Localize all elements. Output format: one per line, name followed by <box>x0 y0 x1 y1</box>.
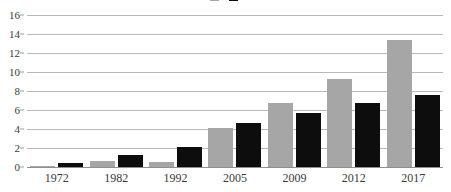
bar-group <box>146 15 205 167</box>
bar[interactable] <box>236 123 261 167</box>
x-axis-tick-label: 2009 <box>282 170 306 186</box>
x-axis-tick-label: 1992 <box>164 170 188 186</box>
bar[interactable] <box>30 166 55 167</box>
grouped-bar-chart: 0246810121416 19721982199220052009201220… <box>0 0 451 192</box>
bar-group <box>205 15 264 167</box>
bar[interactable] <box>208 128 233 167</box>
x-axis-tick-label: 2017 <box>401 170 425 186</box>
chart-legend <box>0 0 451 4</box>
y-axis-tick-mark <box>20 91 24 92</box>
y-axis-tick-label: 12 <box>9 48 20 59</box>
x-axis-tick-label: 2005 <box>223 170 247 186</box>
legend-swatch-icon <box>229 0 238 1</box>
x-axis-tick-label: 1982 <box>104 170 128 186</box>
bar[interactable] <box>58 163 83 167</box>
y-axis-tick-mark <box>20 15 24 16</box>
y-axis-tick-mark <box>20 129 24 130</box>
y-axis-tick-mark <box>20 167 24 168</box>
y-axis-tick-mark <box>20 72 24 73</box>
bar[interactable] <box>268 103 293 167</box>
legend-swatch-icon <box>210 0 219 1</box>
bar[interactable] <box>387 40 412 167</box>
y-axis-tick-label: 14 <box>9 29 20 40</box>
bars-layer <box>27 15 443 167</box>
bar[interactable] <box>355 103 380 167</box>
gridline <box>27 167 443 168</box>
bar-group <box>86 15 145 167</box>
x-axis-tick-label: 2012 <box>342 170 366 186</box>
y-axis-tick-mark <box>20 110 24 111</box>
y-axis-tick-label: 16 <box>9 10 20 21</box>
bar-group <box>265 15 324 167</box>
bar-group <box>27 15 86 167</box>
bar[interactable] <box>327 79 352 167</box>
bar-group <box>384 15 443 167</box>
bar[interactable] <box>296 113 321 167</box>
bar-group <box>324 15 383 167</box>
x-axis: 1972198219922005200920122017 <box>27 170 443 190</box>
y-axis-tick-mark <box>20 34 24 35</box>
legend-entry[interactable] <box>229 0 241 1</box>
bar[interactable] <box>177 147 202 167</box>
y-axis-tick-mark <box>20 53 24 54</box>
bar[interactable] <box>415 95 440 167</box>
bar[interactable] <box>118 155 143 167</box>
y-axis-tick-label: 10 <box>9 67 20 78</box>
bar[interactable] <box>149 162 174 167</box>
bar[interactable] <box>90 161 115 167</box>
x-axis-tick-label: 1972 <box>45 170 69 186</box>
legend-entry[interactable] <box>210 0 222 1</box>
y-axis: 0246810121416 <box>0 15 24 167</box>
y-axis-tick-mark <box>20 148 24 149</box>
